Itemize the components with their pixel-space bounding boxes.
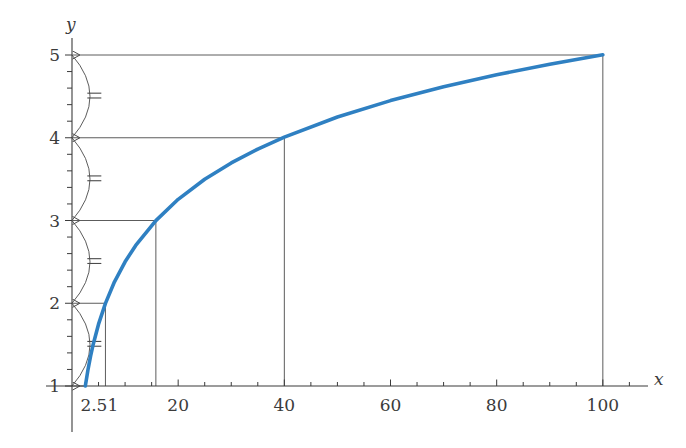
x-tick-label-80: 80 bbox=[486, 395, 508, 415]
y-tick-label-3: 3 bbox=[34, 211, 60, 231]
x-tick-label-2.51: 2.51 bbox=[80, 395, 118, 415]
y-tick-label-2: 2 bbox=[34, 293, 60, 313]
y-tick-label-4: 4 bbox=[34, 128, 60, 148]
plot-canvas bbox=[0, 0, 686, 448]
x-tick-label-20: 20 bbox=[167, 395, 189, 415]
x-tick-label-60: 60 bbox=[380, 395, 402, 415]
x-axis-label: x bbox=[654, 369, 664, 389]
log-function-plot: 2.512040608010012345 y x bbox=[0, 0, 686, 448]
y-tick-label-5: 5 bbox=[34, 45, 60, 65]
guide-lines bbox=[73, 55, 603, 386]
axis-lines bbox=[46, 38, 648, 432]
brace-3-4 bbox=[72, 138, 90, 221]
y-axis-label: y bbox=[66, 14, 76, 34]
log-curve bbox=[85, 55, 603, 386]
brace-2-3 bbox=[72, 221, 90, 304]
x-tick-label-40: 40 bbox=[274, 395, 296, 415]
brace-4-5 bbox=[72, 55, 90, 138]
y-tick-label-1: 1 bbox=[34, 376, 60, 396]
x-tick-label-100: 100 bbox=[587, 395, 619, 415]
